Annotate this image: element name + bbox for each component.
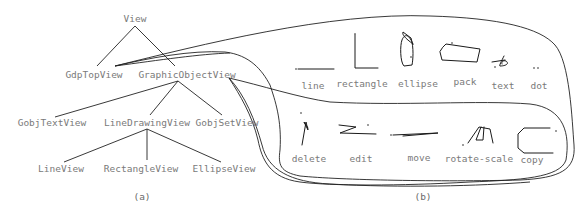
diagram-lines	[0, 0, 586, 210]
gesture-label-ellipse: ellipse	[398, 79, 438, 89]
node-ellipse-view: EllipseView	[193, 164, 256, 174]
gesture-label-edit: edit	[350, 154, 373, 164]
node-gobj-text-view: GobjTextView	[18, 118, 87, 128]
node-line-view: LineView	[38, 164, 84, 174]
gesture-hierarchy-figure: View GdpTopView GraphicObjectView GobjTe…	[0, 0, 586, 210]
node-view: View	[124, 14, 147, 24]
node-line-drawing-view: LineDrawingView	[104, 118, 190, 128]
gesture-glyphs-top	[295, 32, 539, 70]
gesture-label-line: line	[302, 81, 325, 91]
gesture-label-text: text	[492, 81, 515, 91]
gesture-label-dot: dot	[530, 81, 547, 91]
gesture-label-rectangle: rectangle	[336, 79, 387, 89]
caption-a: (a)	[133, 191, 150, 202]
node-rectangle-view: RectangleView	[104, 164, 178, 174]
gesture-label-move: move	[408, 153, 431, 163]
node-gdp-top-view: GdpTopView	[65, 70, 122, 80]
gesture-label-copy: copy	[521, 155, 544, 165]
node-gobj-set-view: GobjSetView	[196, 118, 259, 128]
gesture-label-delete: delete	[292, 154, 326, 164]
gesture-label-pack: pack	[454, 77, 477, 87]
node-graphic-object-view: GraphicObjectView	[138, 70, 235, 80]
gesture-label-rotate-scale: rotate-scale	[445, 154, 514, 164]
gesture-glyphs-bottom	[300, 112, 557, 153]
caption-b: (b)	[414, 191, 431, 202]
